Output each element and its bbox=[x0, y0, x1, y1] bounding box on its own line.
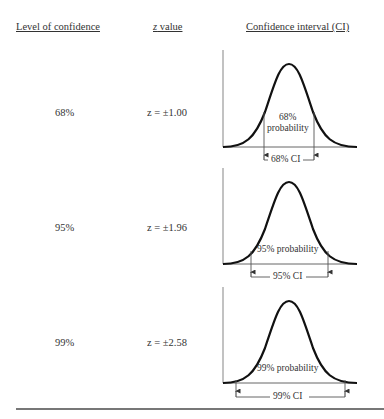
chart-68-prob-line2: probability bbox=[267, 123, 309, 133]
chart-68 bbox=[223, 50, 357, 160]
chart-95 bbox=[223, 168, 357, 277]
chart-68-prob-line1: 68% bbox=[279, 112, 296, 122]
chart-95-prob-label: 95% probability bbox=[257, 244, 318, 254]
chart-99-ci-label: 99% CI bbox=[273, 391, 302, 401]
bottom-rule bbox=[16, 408, 384, 410]
chart-68-ci-label: 68% CI bbox=[271, 154, 300, 164]
chart-99-prob-label: 99% probability bbox=[257, 363, 318, 373]
chart-95-ci-label: 95% CI bbox=[273, 271, 302, 281]
chart-99 bbox=[223, 287, 357, 397]
confidence-interval-diagrams bbox=[0, 0, 384, 419]
